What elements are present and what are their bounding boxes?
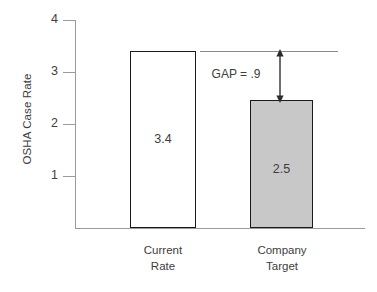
y-tick-mark-2 [63,124,75,125]
bar-value-company-target: 2.5 [251,163,312,176]
y-tick-mark-1 [63,176,75,177]
y-axis-line [75,20,76,228]
category-label-current-rate-line2: Rate [103,258,223,274]
osha-case-rate-bar-chart: OSHA Case Rate 4 3 2 1 3.4 2.5 GAP = .9 … [0,0,377,292]
gap-reference-line [200,51,338,52]
y-tick-mark-4 [63,20,75,21]
y-tick-label-3: 3 [30,65,58,78]
y-tick-label-2: 2 [30,117,58,130]
bar-value-current-rate: 3.4 [131,133,195,146]
y-tick-mark-3 [63,72,75,73]
gap-double-arrow-icon [272,48,288,104]
bar-company-target: 2.5 [250,100,313,228]
bar-current-rate: 3.4 [130,51,196,228]
category-label-company-target-line1: Company [222,242,342,258]
category-label-current-rate: Current Rate [103,242,223,274]
gap-annotation-label: GAP = .9 [200,67,272,81]
category-label-current-rate-line1: Current [103,242,223,258]
category-label-company-target: Company Target [222,242,342,274]
category-label-company-target-line2: Target [222,258,342,274]
y-tick-label-4: 4 [30,13,58,26]
y-tick-label-1: 1 [30,169,58,182]
x-axis-line [75,228,365,229]
